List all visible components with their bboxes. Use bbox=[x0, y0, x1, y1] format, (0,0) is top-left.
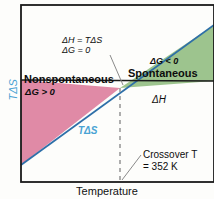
crossover-annotation: Crossover T = 352 K bbox=[143, 150, 197, 172]
tds-line-label: TΔS bbox=[78, 126, 98, 137]
gibbs-free-energy-chart: TΔS Temperature ΔH = TΔS ΔG = 0 ΔG < 0 S… bbox=[0, 0, 214, 199]
x-axis-label: Temperature bbox=[0, 186, 214, 198]
crossover-line1-text: Crossover T bbox=[143, 149, 197, 160]
delta-g-positive-label: ΔG > 0 bbox=[25, 87, 55, 97]
equality-annotation: ΔH = TΔS ΔG = 0 bbox=[62, 36, 102, 56]
y-axis-label: TΔS bbox=[8, 70, 20, 110]
spontaneous-label: Spontaneous bbox=[128, 68, 198, 80]
equality-line2-text: ΔG = 0 bbox=[62, 46, 102, 55]
dh-line-label: ΔH bbox=[152, 95, 166, 106]
delta-g-negative-label: ΔG < 0 bbox=[150, 57, 178, 66]
nonspontaneous-label: Nonspontaneous bbox=[24, 74, 114, 86]
equality-line1-text: ΔH = TΔS bbox=[62, 35, 102, 45]
crossover-line2-text: = 352 K bbox=[143, 162, 197, 173]
